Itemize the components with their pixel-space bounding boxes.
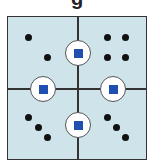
dot-top-right-4 [122,54,129,61]
node-bottom [65,112,91,138]
quadrant-board [7,16,147,160]
blue-square-icon [109,85,118,94]
dot-top-right-2 [122,34,129,41]
node-left [30,76,56,102]
dot-bottom-left-2 [35,124,42,131]
dot-top-right-3 [104,54,111,61]
dot-top-left-1 [25,34,32,41]
blue-square-icon [39,85,48,94]
title-fragment: g [0,0,154,8]
dot-bottom-left-1 [25,114,32,121]
dot-bottom-right-3 [122,134,129,141]
dot-bottom-right-1 [104,114,111,121]
dot-bottom-right-2 [113,124,120,131]
dot-top-left-2 [44,54,51,61]
blue-square-icon [74,121,83,130]
node-top [65,40,91,66]
blue-square-icon [74,49,83,58]
node-right [100,76,126,102]
dot-top-right-1 [104,34,111,41]
dot-bottom-left-3 [44,134,51,141]
